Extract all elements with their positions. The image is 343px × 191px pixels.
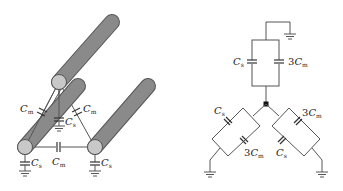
capacitor-right-3cm <box>294 117 302 125</box>
cable-cross-section-figure: Cm Cm Cs Cm Cs <box>18 22 149 176</box>
conductor-end-cap-right <box>88 140 103 155</box>
label-cs-center: Cs <box>65 116 76 128</box>
capacitor-top-cs <box>247 60 257 64</box>
wire-node-left <box>253 104 266 116</box>
label-cm-bottom: Cm <box>52 156 66 168</box>
label-left-cs: Cs <box>214 105 225 117</box>
label-cm-right: Cm <box>83 103 97 115</box>
capacitor-cm-bottom <box>56 142 61 152</box>
wire-top-ground <box>266 22 290 40</box>
label-cs-right: Cs <box>101 157 112 169</box>
equivalent-circuit-figure: Cs 3Cm Cs 3Cm 3Cm Cs <box>204 22 328 177</box>
capacitor-cs-right <box>89 155 101 176</box>
ground-icon-right <box>316 172 328 177</box>
label-right-cs: Cs <box>276 147 287 159</box>
ground-icon-top <box>284 34 296 39</box>
capacitor-cs-left <box>19 155 31 176</box>
label-cm-left: Cm <box>20 103 34 115</box>
label-right-3cm: 3Cm <box>302 107 322 119</box>
capacitor-left-cs <box>224 117 232 125</box>
label-cs-left: Cs <box>31 157 42 169</box>
conductor-end-cap-top <box>52 75 67 90</box>
conductor-cylinder-right <box>88 86 149 155</box>
label-left-3cm: 3Cm <box>244 147 264 159</box>
capacitor-right-cs <box>278 136 286 144</box>
label-top-3cm: 3Cm <box>288 56 308 68</box>
ground-icon-left <box>204 172 216 177</box>
wire-right-ground <box>312 148 322 172</box>
capacitor-top-3cm <box>274 60 284 64</box>
capacitor-left-3cm <box>240 136 248 144</box>
diagram-canvas: Cm Cm Cs Cm Cs <box>0 0 343 191</box>
wire-left-ground <box>210 148 220 172</box>
conductor-end-cap-left <box>18 140 33 155</box>
label-top-cs: Cs <box>233 56 244 68</box>
wire-node-right <box>266 104 279 116</box>
